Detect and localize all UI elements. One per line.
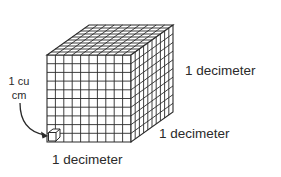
width-label: 1 decimeter [52, 153, 123, 167]
cube-diagram: 1 cu cm 1 decimeter 1 decimeter 1 decime… [0, 0, 281, 177]
depth-label: 1 decimeter [159, 127, 230, 141]
pointer-arrow-icon [20, 103, 48, 139]
height-label: 1 decimeter [185, 64, 256, 78]
unit-cube-highlight [49, 129, 61, 141]
cube-illustration [0, 0, 281, 177]
unit-cube-label-line2: cm [4, 88, 34, 102]
unit-cube-label: 1 cu cm [4, 74, 34, 103]
unit-cube-label-line1: 1 cu [4, 74, 34, 88]
